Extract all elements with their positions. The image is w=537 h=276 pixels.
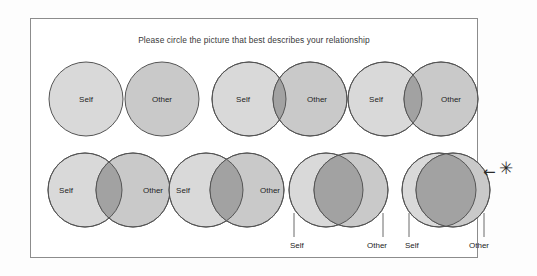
item-1-other-label: Other bbox=[152, 95, 172, 104]
handwritten-arrow-annotation: ← bbox=[483, 165, 496, 180]
handwritten-star-annotation: ✳ bbox=[499, 160, 513, 177]
ios-item-1[interactable]: Self Other bbox=[47, 59, 203, 139]
item-7-self-label: Self bbox=[405, 241, 420, 250]
item-5-self-label: Self bbox=[176, 186, 191, 195]
item-2-other-label: Other bbox=[307, 95, 327, 104]
item-7-other-label: Other bbox=[469, 241, 489, 250]
item-3-self-label: Self bbox=[369, 95, 384, 104]
ios-item-4[interactable]: Self Other bbox=[41, 149, 177, 231]
item-6-self-label: Self bbox=[290, 241, 305, 250]
page-title: Please circle the picture that best desc… bbox=[31, 35, 477, 45]
ios-item-3[interactable]: Self Other bbox=[343, 59, 483, 139]
item-4-self-label: Self bbox=[59, 186, 74, 195]
item-1-self-label: Self bbox=[79, 95, 94, 104]
item-3-other-label: Other bbox=[441, 95, 461, 104]
item-2-self-label: Self bbox=[236, 95, 251, 104]
ios-item-2[interactable]: Self Other bbox=[209, 59, 349, 139]
survey-frame: Please circle the picture that best desc… bbox=[30, 18, 478, 258]
